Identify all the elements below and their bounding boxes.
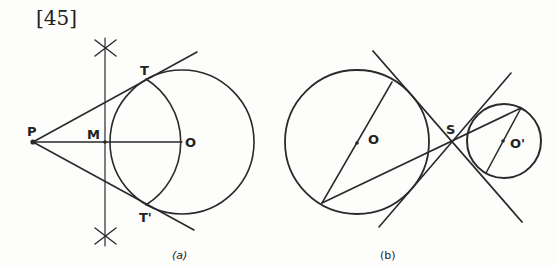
- label-t: T: [140, 63, 149, 78]
- panel-b: O O' S (b): [285, 51, 541, 262]
- panel-a: P M O T T' (a): [27, 38, 254, 262]
- label-o: O: [185, 135, 196, 150]
- label-o-prime: O': [510, 136, 525, 151]
- tangent-pt-prime: [33, 142, 194, 230]
- label-m: M: [87, 127, 100, 142]
- point-o: [355, 141, 359, 145]
- label-t-prime: T': [139, 210, 152, 225]
- point-p: [30, 139, 35, 144]
- caption-a: (a): [172, 249, 187, 262]
- figure-canvas: [45] P M O T T' (a): [0, 0, 558, 266]
- tangent-pt: [33, 52, 197, 142]
- point-m: [103, 140, 107, 144]
- label-p: P: [27, 124, 37, 139]
- secant-line: [322, 108, 521, 203]
- geometry-figure: [45] P M O T T' (a): [0, 0, 558, 266]
- label-s: S: [446, 122, 455, 137]
- common-tangent-2: [379, 73, 511, 227]
- point-o-prime: [501, 139, 505, 143]
- figure-number: [45]: [36, 6, 77, 30]
- label-o-b: O: [368, 132, 379, 147]
- caption-b: (b): [380, 249, 396, 262]
